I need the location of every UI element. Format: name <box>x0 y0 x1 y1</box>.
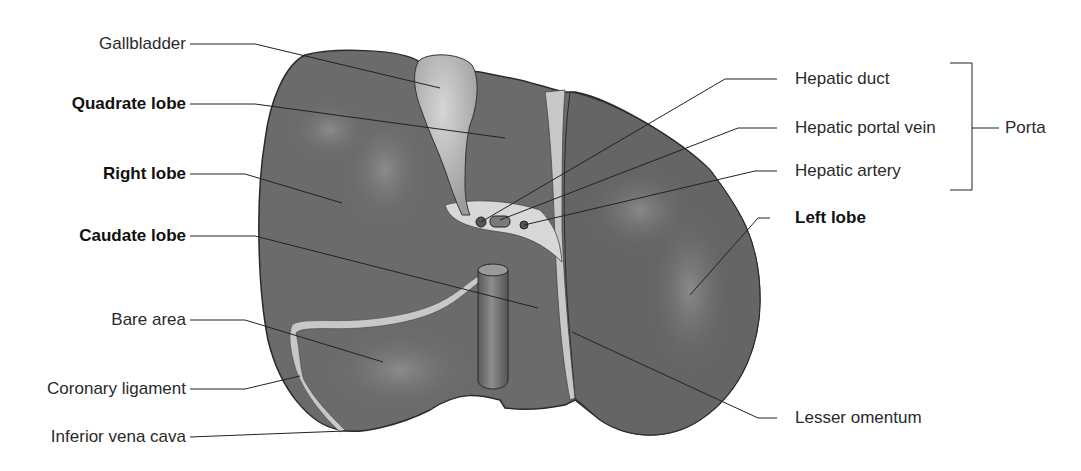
leader-inferior-vena-cava <box>190 431 345 437</box>
label-quadrate-lobe: Quadrate lobe <box>72 94 186 114</box>
label-inferior-vena-cava: Inferior vena cava <box>51 427 186 447</box>
label-hepatic-artery: Hepatic artery <box>795 161 901 181</box>
liver-organ <box>259 50 760 435</box>
label-gallbladder: Gallbladder <box>99 34 186 54</box>
porta-bracket <box>950 63 972 190</box>
label-hepatic-portal-vein: Hepatic portal vein <box>795 118 936 138</box>
label-left-lobe: Left lobe <box>795 208 866 228</box>
label-coronary-ligament: Coronary ligament <box>47 379 186 399</box>
label-caudate-lobe: Caudate lobe <box>79 226 186 246</box>
label-porta: Porta <box>1005 118 1046 138</box>
inferior-vena-cava-shape <box>478 264 508 389</box>
label-lesser-omentum: Lesser omentum <box>795 408 922 428</box>
label-hepatic-duct: Hepatic duct <box>795 69 890 89</box>
label-bare-area: Bare area <box>111 310 186 330</box>
label-right-lobe: Right lobe <box>103 164 186 184</box>
